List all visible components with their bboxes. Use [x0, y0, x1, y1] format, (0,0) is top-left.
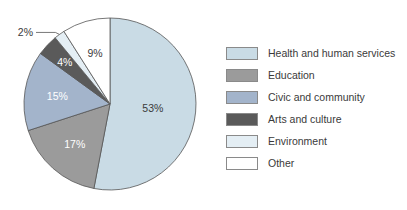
legend-item-education: Education — [226, 64, 395, 86]
legend-label: Education — [268, 69, 315, 81]
legend-swatch — [226, 47, 258, 60]
legend-item-environment: Environment — [226, 130, 395, 152]
slice-label-other: 9% — [88, 47, 103, 59]
legend-item-other: Other — [226, 152, 395, 174]
legend-label: Other — [268, 157, 294, 169]
legend-swatch — [226, 157, 258, 170]
pie-chart: 53%17%15%4%2%9% — [0, 0, 220, 210]
slice-label-education: 17% — [64, 138, 85, 150]
legend-swatch — [226, 91, 258, 104]
leader-line — [36, 32, 59, 34]
legend-item-health: Health and human services — [226, 42, 395, 64]
legend-label: Health and human services — [268, 47, 395, 59]
legend-label: Arts and culture — [268, 113, 342, 125]
slice-label-civic: 15% — [47, 90, 68, 102]
legend-swatch — [226, 69, 258, 82]
legend: Health and human services Education Civi… — [226, 42, 395, 174]
legend-label: Environment — [268, 135, 327, 147]
legend-swatch — [226, 113, 258, 126]
legend-swatch — [226, 135, 258, 148]
slice-label-environment: 2% — [18, 26, 33, 38]
legend-label: Civic and community — [268, 91, 365, 103]
legend-item-civic: Civic and community — [226, 86, 395, 108]
slice-label-arts: 4% — [57, 56, 72, 68]
slice-label-health: 53% — [142, 102, 163, 114]
legend-item-arts: Arts and culture — [226, 108, 395, 130]
